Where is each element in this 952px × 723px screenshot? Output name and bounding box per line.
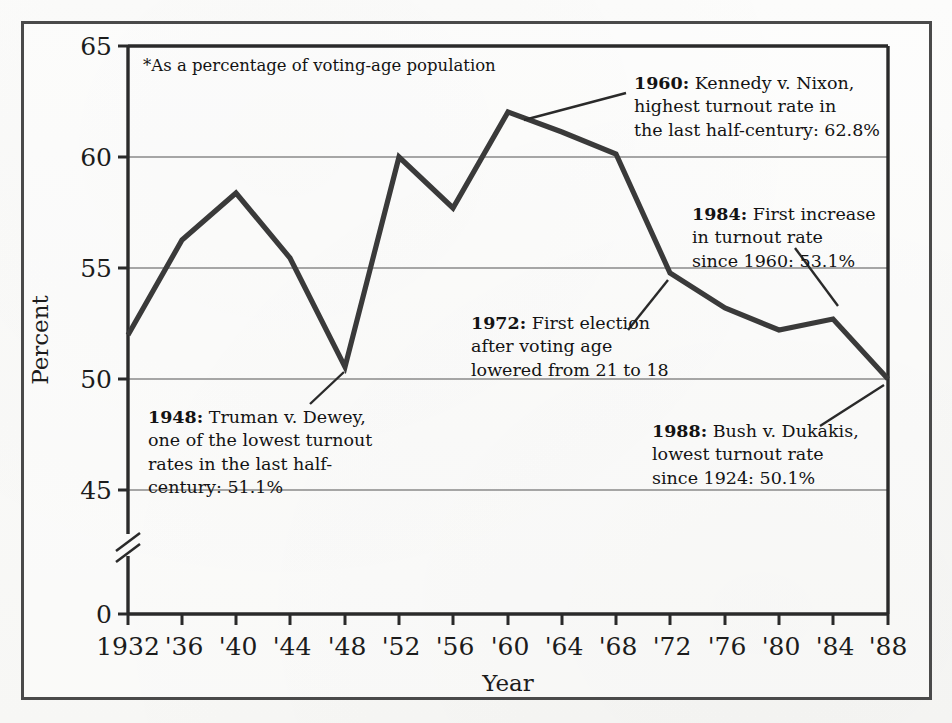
annotation-1984-year: 1984: <box>692 204 747 224</box>
annotation-1984-line2: in turnout rate <box>692 226 876 249</box>
annotation-1988-year: 1988: <box>652 421 707 441</box>
x-tick-label-1952: '52 <box>382 632 421 661</box>
annotation-1972: 1972: First election after voting age lo… <box>471 312 669 382</box>
annotation-1984-line1: 1984: First increase <box>692 203 876 226</box>
footnote: *As a percentage of voting-age populatio… <box>143 56 496 75</box>
y-axis-title: Percent <box>27 294 53 384</box>
annotation-1972-line1: 1972: First election <box>471 312 669 335</box>
x-tick-label-1984: '84 <box>816 632 855 661</box>
annotation-1948-line4: century: 51.1% <box>148 476 372 499</box>
leader-line-1948 <box>310 372 344 404</box>
x-tick-label-1968: '68 <box>599 632 638 661</box>
annotation-1988-line3: since 1924: 50.1% <box>652 467 859 490</box>
annotation-1972-line3: lowered from 21 to 18 <box>471 359 669 382</box>
annotation-1948-line2: one of the lowest turnout <box>148 429 372 452</box>
y-tick-labels: 65 60 55 50 45 0 <box>80 32 112 629</box>
x-tick-labels: 1932 '36 '40 '44 '48 '52 '56 '60 '64 '68… <box>96 632 907 661</box>
x-tick-label-1936: '36 <box>165 632 204 661</box>
annotation-1988-line2: lowest turnout rate <box>652 443 859 466</box>
annotation-1984: 1984: First increase in turnout rate sin… <box>692 203 876 273</box>
annotation-1948-year: 1948: <box>148 407 203 427</box>
annotation-1960-year: 1960: <box>634 73 689 93</box>
annotation-1948: 1948: Truman v. Dewey, one of the lowest… <box>148 406 372 499</box>
x-tick-label-1944: '44 <box>273 632 312 661</box>
annotation-1972-year: 1972: <box>471 313 526 333</box>
x-axis-title: Year <box>481 670 534 696</box>
y-tick-label-60: 60 <box>80 143 112 172</box>
chart-page: 65 60 55 50 45 0 1932 <box>0 0 952 723</box>
annotation-1972-line2: after voting age <box>471 335 669 358</box>
annotation-1960-line2: highest turnout rate in <box>634 95 880 118</box>
y-tick-label-65: 65 <box>80 32 112 61</box>
annotation-1960-line1: 1960: Kennedy v. Nixon, <box>634 72 880 95</box>
annotation-1984-text1: First increase <box>747 204 875 224</box>
annotation-1988: 1988: Bush v. Dukakis, lowest turnout ra… <box>652 420 859 490</box>
y-tick-label-0: 0 <box>96 600 112 629</box>
x-tick-label-1960: '60 <box>491 632 530 661</box>
y-tick-label-55: 55 <box>80 254 112 283</box>
x-tick-label-1976: '76 <box>708 632 747 661</box>
x-tick-label-1980: '80 <box>762 632 801 661</box>
leader-line-1960 <box>524 93 626 120</box>
annotation-1960: 1960: Kennedy v. Nixon, highest turnout … <box>634 72 880 142</box>
x-tick-label-1964: '64 <box>545 632 584 661</box>
annotation-1960-line3: the last half-century: 62.8% <box>634 119 880 142</box>
x-tick-label-1956: '56 <box>436 632 475 661</box>
annotation-1948-line1: 1948: Truman v. Dewey, <box>148 406 372 429</box>
annotation-1984-line3: since 1960: 53.1% <box>692 250 876 273</box>
annotation-1948-text1: Truman v. Dewey, <box>203 407 366 427</box>
annotation-1972-text1: First election <box>526 313 650 333</box>
x-tick-label-1972: '72 <box>653 632 692 661</box>
annotation-1948-line3: rates in the last half- <box>148 453 372 476</box>
y-tick-label-50: 50 <box>80 365 112 394</box>
x-tick-label-1940: '40 <box>219 632 258 661</box>
annotation-1960-text1: Kennedy v. Nixon, <box>689 73 854 93</box>
annotation-1988-text1: Bush v. Dukakis, <box>707 421 859 441</box>
x-tick-label-1932: 1932 <box>96 632 160 661</box>
annotation-1988-line1: 1988: Bush v. Dukakis, <box>652 420 859 443</box>
x-tick-label-1948: '48 <box>328 632 367 661</box>
x-tick-label-1988: '88 <box>869 632 908 661</box>
y-tick-label-45: 45 <box>80 476 112 505</box>
